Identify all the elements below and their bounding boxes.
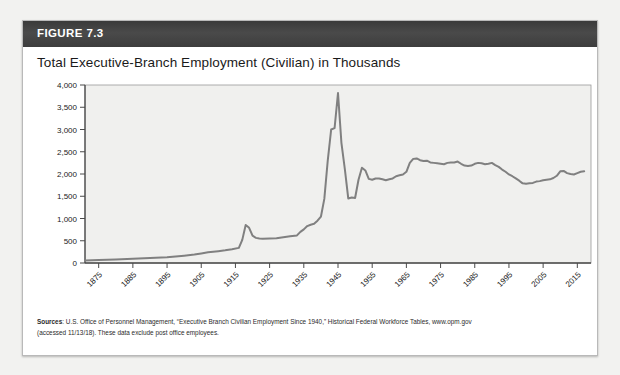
source-line-2: (accessed 11/13/18). These data exclude …	[37, 329, 219, 336]
svg-text:1975: 1975	[427, 270, 446, 289]
svg-text:1925: 1925	[256, 270, 275, 289]
svg-text:1985: 1985	[461, 270, 480, 289]
chart-title: Total Executive-Branch Employment (Civil…	[37, 55, 400, 70]
svg-text:1935: 1935	[290, 270, 309, 289]
svg-text:1895: 1895	[154, 270, 173, 289]
svg-text:3,000: 3,000	[57, 126, 78, 135]
svg-text:0: 0	[73, 259, 78, 268]
svg-text:1995: 1995	[495, 270, 514, 289]
source-label: Sources	[37, 318, 62, 325]
svg-text:2005: 2005	[530, 270, 549, 289]
source-line-1: : U.S. Office of Personnel Management, “…	[62, 318, 472, 325]
svg-text:2015: 2015	[564, 270, 583, 289]
svg-text:1875: 1875	[85, 270, 104, 289]
svg-text:1,000: 1,000	[57, 215, 78, 224]
svg-text:1,500: 1,500	[57, 192, 78, 201]
svg-text:500: 500	[64, 237, 78, 246]
chart-plot-area: 05001,0001,5002,0002,5003,0003,5004,0001…	[23, 79, 599, 319]
source-note: Sources: U.S. Office of Personnel Manage…	[37, 317, 585, 338]
svg-text:2,000: 2,000	[57, 170, 78, 179]
figure-header-bar: FIGURE 7.3	[23, 21, 597, 47]
employment-line-chart: 05001,0001,5002,0002,5003,0003,5004,0001…	[23, 79, 599, 319]
svg-text:1885: 1885	[119, 270, 138, 289]
figure-page: FIGURE 7.3 Total Executive-Branch Employ…	[0, 0, 620, 375]
svg-text:1945: 1945	[324, 270, 343, 289]
svg-text:2,500: 2,500	[57, 148, 78, 157]
svg-text:3,500: 3,500	[57, 103, 78, 112]
svg-text:1965: 1965	[393, 270, 412, 289]
figure-card: FIGURE 7.3 Total Executive-Branch Employ…	[22, 20, 598, 356]
svg-text:1915: 1915	[222, 270, 241, 289]
svg-text:1955: 1955	[359, 270, 378, 289]
figure-number-label: FIGURE 7.3	[37, 27, 104, 39]
svg-text:1905: 1905	[188, 270, 207, 289]
svg-text:4,000: 4,000	[57, 81, 78, 90]
